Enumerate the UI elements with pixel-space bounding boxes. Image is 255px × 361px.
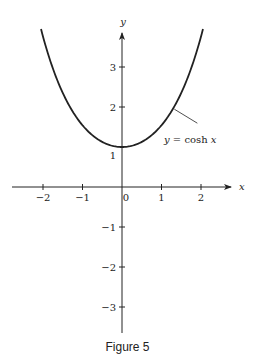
y-tick-label: −2 (101, 262, 116, 273)
y-tick-label: 3 (110, 62, 116, 73)
x-tick-label: −2 (36, 192, 51, 203)
axis-labels: −2−1012−3−2−1123xyy = cosh x (36, 16, 245, 313)
y-tick-label: −3 (101, 302, 116, 313)
cosh-figure: −2−1012−3−2−1123xyy = cosh x (0, 0, 255, 361)
y-tick-label: 2 (110, 102, 116, 113)
x-tick-label: 0 (123, 192, 129, 203)
y-tick-label: −1 (101, 222, 116, 233)
x-tick-label: 2 (198, 192, 204, 203)
y-axis-label: y (119, 16, 126, 27)
figure-caption: Figure 5 (0, 340, 255, 354)
axes (12, 33, 231, 333)
x-tick-label: −1 (75, 192, 90, 203)
curve-label: y = cosh x (163, 134, 217, 145)
y-tick-label: 1 (110, 150, 116, 161)
x-axis-label: x (239, 181, 245, 192)
x-tick-label: 1 (158, 192, 164, 203)
annotation-leader (174, 109, 197, 123)
